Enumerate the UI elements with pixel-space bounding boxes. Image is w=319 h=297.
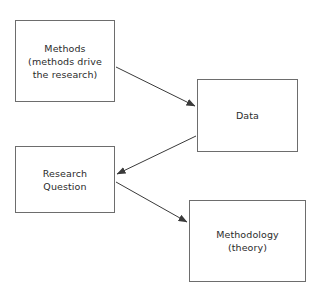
- node-methods: Methods (methods drive the research): [15, 20, 115, 102]
- arrow-research-question-to-methodology: [116, 182, 187, 222]
- node-data: Data: [197, 79, 298, 152]
- node-methodology-label: Methodology (theory): [213, 228, 282, 254]
- arrow-data-to-research-question: [117, 136, 196, 174]
- node-research-question-label: Research Question: [40, 167, 90, 193]
- diagram-canvas: Methods (methods drive the research) Dat…: [0, 0, 319, 297]
- node-methods-label: Methods (methods drive the research): [25, 42, 105, 81]
- node-research-question: Research Question: [15, 146, 115, 213]
- node-methodology: Methodology (theory): [189, 200, 306, 282]
- node-data-label: Data: [233, 109, 262, 122]
- arrow-methods-to-data: [116, 67, 195, 106]
